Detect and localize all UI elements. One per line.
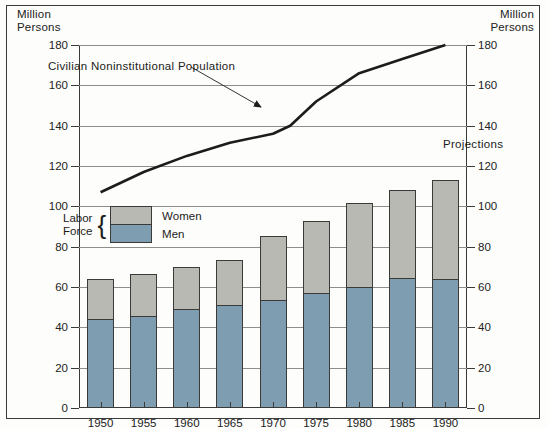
- x-tick-1990: [445, 402, 446, 408]
- right-axis-title: Million Persons: [490, 8, 534, 34]
- legend-swatch-women: [111, 207, 151, 225]
- y-tick-l-160: [71, 85, 79, 86]
- x-label-1950: 1950: [88, 417, 114, 428]
- y-label-l-0: 0: [62, 402, 68, 414]
- y-label-l-140: 140: [49, 120, 68, 132]
- x-label-1960: 1960: [174, 417, 200, 428]
- y-tick-r-180: [467, 45, 475, 46]
- x-label-1980: 1980: [346, 417, 372, 428]
- x-label-1975: 1975: [303, 417, 329, 428]
- legend-group-label-line2: Force: [63, 225, 92, 238]
- y-label-r-60: 60: [478, 281, 491, 293]
- y-label-l-120: 120: [49, 160, 68, 172]
- y-tick-r-160: [467, 85, 475, 86]
- x-label-1955: 1955: [131, 417, 157, 428]
- y-label-r-140: 140: [478, 120, 497, 132]
- annotation-leader-arrow: [191, 67, 261, 107]
- legend: Labor Force { Women Men: [63, 206, 202, 243]
- x-tick-1960: [187, 402, 188, 408]
- y-label-l-40: 40: [55, 321, 68, 333]
- y-label-r-180: 180: [478, 39, 497, 51]
- x-tick-1985: [402, 402, 403, 408]
- y-label-l-60: 60: [55, 281, 68, 293]
- y-label-l-160: 160: [49, 79, 68, 91]
- y-label-r-20: 20: [478, 362, 491, 374]
- y-label-l-20: 20: [55, 362, 68, 374]
- legend-group-label: Labor Force: [63, 212, 92, 238]
- x-tick-1955: [144, 402, 145, 408]
- legend-item-women: Women: [162, 207, 201, 225]
- legend-swatch-men: [111, 225, 151, 242]
- y-label-r-160: 160: [478, 79, 497, 91]
- population-line-label: Civilian Noninstitutional Population: [48, 60, 235, 72]
- y-label-r-40: 40: [478, 321, 491, 333]
- x-tick-1980: [359, 402, 360, 408]
- y-tick-l-180: [71, 45, 79, 46]
- x-label-1990: 1990: [433, 417, 459, 428]
- y-tick-r-0: [467, 408, 475, 409]
- x-label-1965: 1965: [217, 417, 243, 428]
- x-tick-1950: [101, 402, 102, 408]
- legend-names: Women Men: [162, 207, 201, 243]
- legend-swatches: [110, 206, 152, 243]
- y-tick-l-120: [71, 166, 79, 167]
- y-tick-l-0: [71, 408, 79, 409]
- y-tick-r-120: [467, 166, 475, 167]
- legend-brace: {: [97, 214, 106, 236]
- projections-label: Projections: [443, 138, 503, 150]
- y-tick-l-60: [71, 287, 79, 288]
- y-label-r-80: 80: [478, 241, 491, 253]
- x-label-1970: 1970: [260, 417, 286, 428]
- y-tick-l-20: [71, 368, 79, 369]
- left-axis-title: Million Persons: [17, 8, 61, 34]
- y-tick-r-140: [467, 126, 475, 127]
- y-tick-l-140: [71, 126, 79, 127]
- y-tick-r-40: [467, 327, 475, 328]
- y-tick-l-40: [71, 327, 79, 328]
- x-label-1985: 1985: [390, 417, 416, 428]
- legend-item-men: Men: [162, 225, 201, 243]
- x-tick-1975: [316, 402, 317, 408]
- y-tick-l-80: [71, 247, 79, 248]
- chart-screenshot: Million Persons Million Persons 00202040…: [0, 0, 548, 428]
- x-tick-1970: [273, 402, 274, 408]
- legend-group-label-line1: Labor: [63, 212, 92, 225]
- x-tick-1965: [230, 402, 231, 408]
- y-label-r-0: 0: [478, 402, 484, 414]
- y-label-l-180: 180: [49, 39, 68, 51]
- y-tick-r-60: [467, 287, 475, 288]
- y-label-r-100: 100: [478, 200, 497, 212]
- y-tick-r-80: [467, 247, 475, 248]
- y-tick-r-100: [467, 206, 475, 207]
- y-label-r-120: 120: [478, 160, 497, 172]
- y-tick-r-20: [467, 368, 475, 369]
